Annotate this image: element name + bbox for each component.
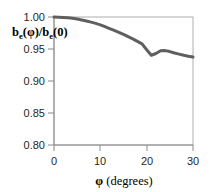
y-axis-title-paren1: (φ)/ bbox=[23, 25, 43, 39]
x-axis-title-symbol: φ bbox=[95, 174, 103, 188]
y-tick-label-0.85: 0.85 bbox=[24, 107, 45, 119]
y-tick-label-0.90: 0.90 bbox=[24, 75, 45, 87]
y-tick-label-0.95: 0.95 bbox=[24, 43, 45, 55]
x-axis-title: φ (degrees) bbox=[95, 174, 152, 188]
plot-area-border bbox=[54, 17, 193, 145]
x-axis-title-unit: (degrees) bbox=[106, 174, 153, 188]
x-tick-label-10: 10 bbox=[94, 155, 106, 167]
x-tick-label-20: 20 bbox=[141, 155, 153, 167]
y-axis-title-b1: b bbox=[12, 25, 19, 39]
x-tick-label-30: 30 bbox=[187, 155, 199, 167]
x-tick-label-0: 0 bbox=[51, 155, 57, 167]
chart-svg: 1.00 0.95 0.90 0.85 0.80 0 10 20 30 be(φ… bbox=[0, 0, 211, 192]
y-tick-label-0.80: 0.80 bbox=[24, 139, 45, 151]
y-axis-title-paren2: (0) bbox=[53, 25, 68, 39]
data-series-curve bbox=[54, 17, 193, 57]
y-axis-title-b2: b bbox=[42, 25, 49, 39]
y-tick-label-1.00: 1.00 bbox=[24, 11, 45, 23]
y-axis-title: be(φ)/be(0) bbox=[12, 25, 68, 41]
chart-figure: 1.00 0.95 0.90 0.85 0.80 0 10 20 30 be(φ… bbox=[0, 0, 211, 192]
